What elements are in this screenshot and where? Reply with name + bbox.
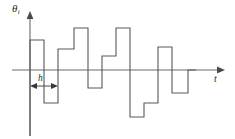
- y-axis-label-subscript: i: [18, 8, 20, 16]
- signal-plot: [0, 0, 235, 139]
- step-width-left-arrow-icon: [30, 83, 37, 89]
- step-width-right-arrow-icon: [51, 83, 58, 89]
- step-width-label: h: [38, 74, 43, 84]
- y-axis-label-symbol: θ: [12, 2, 17, 14]
- figure-container: θi t h: [0, 0, 235, 139]
- x-axis-label: t: [214, 74, 217, 84]
- x-axis-arrow-icon: [217, 66, 225, 73]
- step-signal-trace: [30, 28, 196, 136]
- y-axis-arrow-icon: [27, 11, 34, 19]
- y-axis-label: θi: [12, 3, 19, 14]
